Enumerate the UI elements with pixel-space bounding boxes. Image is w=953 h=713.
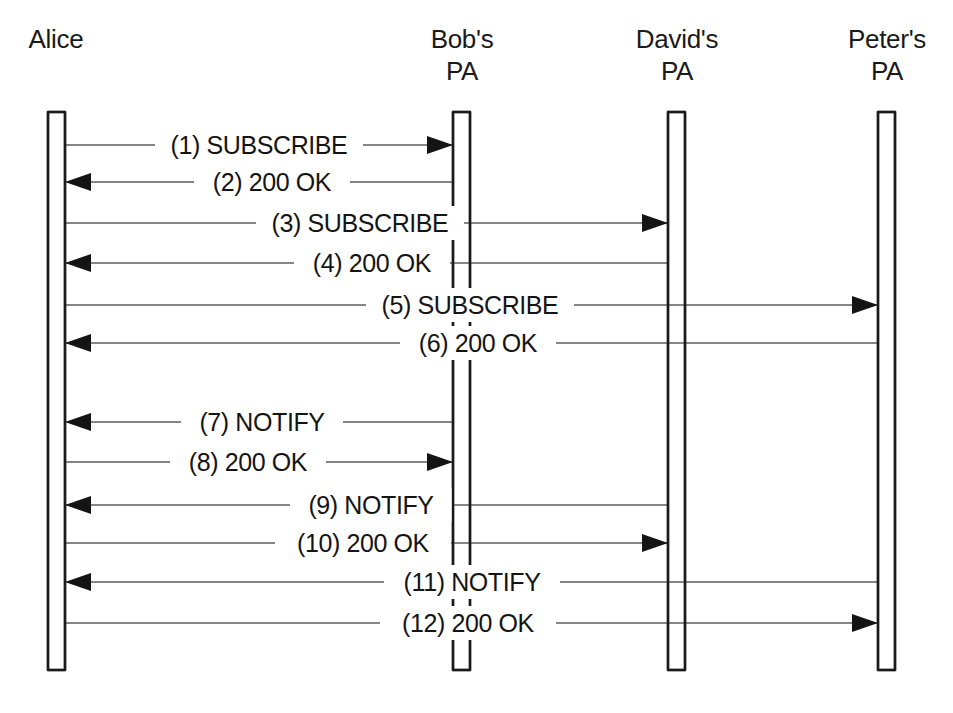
message-label: (8) 200 OK bbox=[189, 448, 308, 476]
actor-label-line: Bob's bbox=[431, 24, 494, 54]
message-label: (6) 200 OK bbox=[419, 329, 538, 357]
message-label: (3) SUBSCRIBE bbox=[272, 209, 449, 237]
lifeline-peters-pa bbox=[878, 112, 895, 670]
actor-label-line: Alice bbox=[29, 24, 84, 54]
sequence-diagram-svg: (1) SUBSCRIBE(2) 200 OK(3) SUBSCRIBE(4) … bbox=[0, 0, 953, 713]
actor-label-line: Peter's bbox=[848, 24, 926, 54]
actor-header-alice: Alice bbox=[29, 24, 84, 54]
message-label: (10) 200 OK bbox=[297, 529, 430, 557]
lifeline-davids-pa bbox=[668, 112, 685, 670]
actor-label-line: PA bbox=[446, 56, 479, 86]
message-label: (1) SUBSCRIBE bbox=[171, 131, 348, 159]
message-label: (4) 200 OK bbox=[313, 249, 432, 277]
message-label: (7) NOTIFY bbox=[199, 408, 325, 436]
message-label: (12) 200 OK bbox=[402, 609, 535, 637]
message-label: (2) 200 OK bbox=[213, 168, 332, 196]
sequence-diagram-canvas: (1) SUBSCRIBE(2) 200 OK(3) SUBSCRIBE(4) … bbox=[0, 0, 953, 713]
actor-label-line: PA bbox=[871, 56, 904, 86]
message-label: (5) SUBSCRIBE bbox=[382, 291, 559, 319]
actor-label-line: David's bbox=[636, 24, 719, 54]
actor-label-line: PA bbox=[661, 56, 694, 86]
lifeline-alice bbox=[48, 112, 65, 670]
message-label: (9) NOTIFY bbox=[308, 491, 434, 519]
message-label: (11) NOTIFY bbox=[404, 568, 542, 596]
